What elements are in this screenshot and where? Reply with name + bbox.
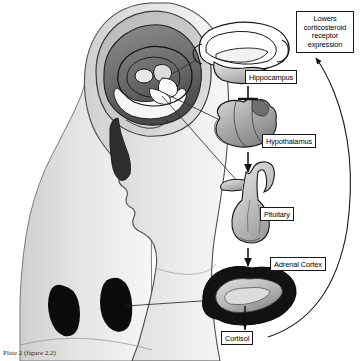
anatomy-illustration xyxy=(0,0,362,361)
head-and-torso-illustration xyxy=(20,3,229,361)
connector-hippocampus-hypothalamus xyxy=(238,86,258,99)
label-hippocampus: Hippocampus xyxy=(245,70,297,84)
hpa-axis-figure: Hippocampus Hypothalamus Pituitary Adren… xyxy=(0,0,362,361)
label-hypothalamus: Hypothalamus xyxy=(262,134,316,148)
label-cortisol: Cortisol xyxy=(221,331,253,345)
label-pituitary: Pituitary xyxy=(260,207,294,221)
figure-caption: Plate 2 (figure 2.2) xyxy=(3,349,56,358)
adrenal-cortex-structure xyxy=(202,266,296,325)
callout-lowers-corticosteroid-receptor-expression: Lowers corticosteroid receptor expressio… xyxy=(296,11,354,53)
pituitary-structure xyxy=(220,162,274,243)
label-adrenal-cortex: Adrenal Cortex xyxy=(270,257,326,271)
